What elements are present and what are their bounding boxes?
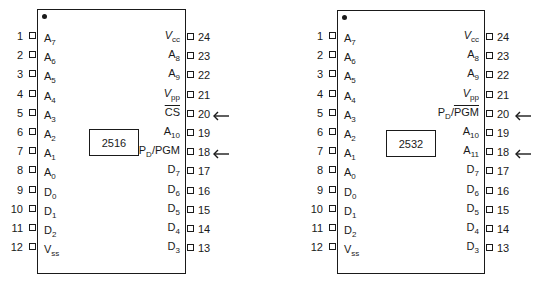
- pin-subscript: 6: [351, 57, 355, 66]
- pin-label: A9: [168, 67, 180, 79]
- pin-label: D7: [467, 163, 479, 175]
- pin-number: 7: [303, 145, 323, 157]
- pin-square: [486, 206, 493, 213]
- arrow-left-icon: [514, 146, 532, 158]
- pin-subscript: 4: [351, 96, 355, 105]
- pin-subscript: cc: [172, 35, 180, 44]
- pin-name: V: [165, 29, 172, 41]
- pin-number: 17: [198, 165, 210, 177]
- pin-label: A2: [44, 128, 56, 140]
- pin-subscript: 5: [51, 76, 55, 85]
- pin-number: 18: [497, 146, 509, 158]
- pin-number: 15: [198, 204, 210, 216]
- pin-label: D2: [344, 224, 356, 236]
- pin-label: Vss: [44, 243, 59, 255]
- pin-label: PD/PGM: [139, 144, 180, 156]
- pin-label: CS: [165, 106, 180, 118]
- pin-subscript: 4: [51, 96, 55, 105]
- pin-name: D: [467, 240, 475, 252]
- pin-number: 10: [3, 203, 23, 215]
- pin-number: 2: [303, 49, 323, 61]
- pin-subscript: 7: [351, 38, 355, 47]
- pin-label: D1: [44, 205, 56, 217]
- pin-label: A6: [344, 51, 356, 63]
- pin-subscript: 5: [176, 208, 180, 217]
- pin-subscript: 7: [51, 38, 55, 47]
- pin-name: V: [464, 29, 471, 41]
- pin-number: 8: [303, 164, 323, 176]
- pin-number: 4: [3, 88, 23, 100]
- pin-name: V: [463, 87, 470, 99]
- pin-label: A0: [344, 166, 356, 178]
- pin-subscript: 11: [471, 150, 479, 159]
- pin-label: D3: [467, 240, 479, 252]
- pin-square: [187, 110, 194, 117]
- pin-label: D4: [467, 221, 479, 233]
- pin-square: [329, 51, 336, 58]
- pin-label: A1: [344, 147, 356, 159]
- pin-label: D4: [168, 221, 180, 233]
- pin-name: P: [139, 144, 146, 156]
- pin-square: [329, 205, 336, 212]
- pin-square: [187, 187, 194, 194]
- pin-label: A10: [463, 125, 479, 137]
- pin-name: D: [168, 183, 176, 195]
- arrow-left-icon: [514, 108, 532, 120]
- pin-label: D7: [168, 163, 180, 175]
- pin-square: [29, 243, 36, 250]
- pin-suffix-overline: PGM: [454, 106, 479, 118]
- pin-square: [329, 166, 336, 173]
- pin-number: 7: [3, 145, 23, 157]
- pin-subscript: cc: [471, 35, 479, 44]
- pin-number: 12: [3, 241, 23, 253]
- pin-square: [29, 109, 36, 116]
- pin-name: P: [438, 106, 445, 118]
- pin-square: [29, 32, 36, 39]
- pin-number: 3: [3, 68, 23, 80]
- pin-name: D: [467, 183, 475, 195]
- pin-square: [329, 224, 336, 231]
- pin-label: A7: [44, 32, 56, 44]
- pin-name: D: [467, 221, 475, 233]
- pin-subscript: pp: [171, 93, 180, 102]
- pin-square: [29, 186, 36, 193]
- pin-subscript: 1: [351, 153, 355, 162]
- pin-square: [486, 167, 493, 174]
- pin-subscript: 2: [51, 134, 55, 143]
- pin-square: [29, 147, 36, 154]
- pin-subscript: 0: [352, 192, 356, 201]
- pin-number: 19: [198, 127, 210, 139]
- pin-label: D5: [168, 202, 180, 214]
- pin-label: A8: [467, 48, 479, 60]
- pin-square: [486, 244, 493, 251]
- pin-label: Vcc: [165, 29, 180, 41]
- pin-label: A5: [44, 70, 56, 82]
- pin-name: A: [463, 125, 470, 137]
- pin-square: [29, 70, 36, 77]
- pin-square: [486, 52, 493, 59]
- pin-subscript: 7: [475, 169, 479, 178]
- pin-number: 16: [198, 185, 210, 197]
- pin-subscript: 8: [475, 54, 479, 63]
- pin-name: D: [168, 240, 176, 252]
- pin-number: 20: [198, 108, 210, 120]
- pin-label: A5: [344, 70, 356, 82]
- pin-subscript: 2: [52, 230, 56, 239]
- pin-square: [486, 187, 493, 194]
- pin-label: Vcc: [464, 29, 479, 41]
- pin-label: D6: [168, 183, 180, 195]
- pin1-indicator-dot: [42, 14, 47, 19]
- pin-square: [187, 244, 194, 251]
- pin-number: 9: [303, 184, 323, 196]
- pin-name: D: [168, 202, 176, 214]
- pin-number: 4: [303, 88, 323, 100]
- pin-square: [486, 110, 493, 117]
- pin-number: 24: [198, 31, 210, 43]
- pin-subscript: 7: [176, 169, 180, 178]
- pin-subscript: 5: [351, 76, 355, 85]
- pin-name: D: [168, 163, 176, 175]
- pin-square: [187, 33, 194, 40]
- pin-label: A10: [164, 125, 180, 137]
- pin-square: [187, 167, 194, 174]
- pin-number: 23: [198, 50, 210, 62]
